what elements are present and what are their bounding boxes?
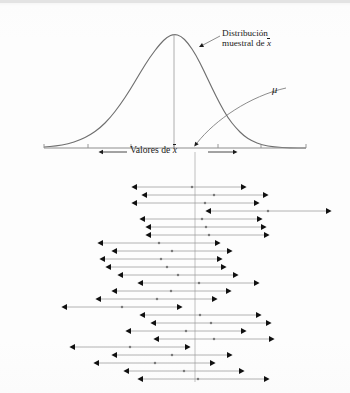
confidence-interval-row xyxy=(117,250,227,253)
confidence-interval-row xyxy=(137,186,241,189)
distribution-label-line2: muestral de x xyxy=(222,38,271,48)
sample-mean-dot xyxy=(204,202,207,205)
sample-mean-dot xyxy=(197,378,200,381)
confidence-interval-row xyxy=(117,290,226,293)
confidence-interval-row xyxy=(103,242,215,245)
sample-mean-dot xyxy=(198,282,201,285)
distribution-label: Distribución muestral de x xyxy=(222,28,271,49)
sample-mean-dot xyxy=(201,218,204,221)
sample-mean-dot xyxy=(208,234,211,237)
sample-mean-dot xyxy=(171,354,174,357)
confidence-interval-row xyxy=(143,282,254,285)
axis-x-bar-symbol: x xyxy=(173,144,177,155)
confidence-interval-row xyxy=(67,306,177,309)
confidence-interval-row xyxy=(75,346,185,349)
distribution-label-prefix: muestral de xyxy=(222,38,267,48)
confidence-interval-row xyxy=(129,370,239,373)
sample-mean-dot xyxy=(170,290,173,293)
mu-leader-line xyxy=(197,88,286,143)
sample-mean-dot xyxy=(185,330,188,333)
x-bar-symbol: x xyxy=(267,38,271,48)
confidence-interval-row xyxy=(147,194,263,197)
sample-mean-dot xyxy=(210,322,213,325)
distribution-label-line1: Distribución xyxy=(222,28,271,38)
confidence-interval-row xyxy=(131,330,241,333)
confidence-interval-row xyxy=(111,266,221,269)
figure-root: Distribución muestral de x μ Valores de … xyxy=(0,0,350,393)
sampling-distribution-panel xyxy=(44,34,306,152)
sample-mean-dot xyxy=(199,314,202,317)
sample-mean-dot xyxy=(177,274,180,277)
confidence-interval-row xyxy=(145,314,256,317)
statistics-figure-svg xyxy=(0,0,350,393)
confidence-interval-row xyxy=(156,322,266,325)
sample-mean-dot xyxy=(183,370,186,373)
confidence-interval-row xyxy=(117,354,227,357)
confidence-interval-row xyxy=(143,378,264,381)
sample-mean-dot xyxy=(213,194,216,197)
sample-mean-dot xyxy=(213,338,216,341)
distribution-leader-line xyxy=(203,36,220,45)
axis-label-prefix: Valores de xyxy=(130,144,173,155)
axis-label: Valores de x xyxy=(130,145,177,156)
confidence-interval-row xyxy=(99,362,210,365)
confidence-interval-row xyxy=(211,210,326,213)
sample-mean-dot xyxy=(158,242,161,245)
confidence-intervals-panel xyxy=(67,152,326,382)
confidence-interval-row xyxy=(145,218,257,221)
mu-label: μ xyxy=(272,84,277,96)
sample-mean-dot xyxy=(267,210,270,213)
sample-mean-dot xyxy=(171,250,174,253)
confidence-interval-row xyxy=(159,338,269,341)
sample-mean-dot xyxy=(191,186,194,189)
confidence-interval-row xyxy=(123,274,233,277)
sample-mean-dot xyxy=(205,226,208,229)
sample-mean-dot xyxy=(154,362,157,365)
confidence-interval-rows xyxy=(67,186,326,381)
confidence-interval-row xyxy=(105,258,217,261)
bell-curve-path xyxy=(44,35,306,148)
confidence-interval-row xyxy=(151,234,264,237)
sample-mean-dot xyxy=(166,266,169,269)
sample-mean-dot xyxy=(121,306,124,309)
sample-mean-dot xyxy=(156,298,159,301)
sample-mean-dot xyxy=(160,258,163,261)
confidence-interval-row xyxy=(137,202,254,205)
confidence-interval-row xyxy=(151,226,261,229)
sample-mean-dot xyxy=(129,346,132,349)
